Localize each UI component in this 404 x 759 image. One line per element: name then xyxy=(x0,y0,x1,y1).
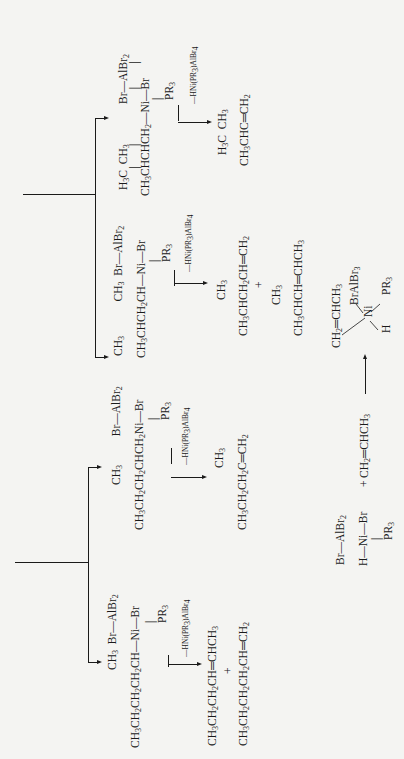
product-main: CH3CHCH2CH═CH2 xyxy=(237,236,249,336)
intermediate-top-line: CH3 Br—AlBr2 xyxy=(106,594,118,670)
product-main: CH3CH2CH2CH2CH═CH2 xyxy=(237,622,249,746)
reaction-arrow xyxy=(365,358,366,394)
elimination-label: —HNi(PR3)AlBr4 xyxy=(180,407,192,465)
reaction-arrow xyxy=(178,105,179,121)
catalyst-main: H—Ni—Br xyxy=(357,512,369,566)
arrow-head-icon xyxy=(203,281,208,285)
product-main: CH3CHC═CH2 xyxy=(238,94,250,166)
reaction-arrow xyxy=(171,448,172,464)
intermediate-ligand: |PR3 xyxy=(148,244,172,262)
plus-sign: + xyxy=(253,282,265,289)
elimination-label: —HNi(PR3)AlBr4 xyxy=(188,46,200,104)
reaction-arrow xyxy=(178,122,208,123)
intermediate-top-line: CH3 CH3 Br—AlBr2 xyxy=(112,226,124,356)
catalyst-ligand: |PR3 xyxy=(370,522,394,540)
intermediate-top-line: CH3 Br—AlBr2 xyxy=(110,386,122,485)
plus-sign: + xyxy=(358,481,370,488)
reaction-arrow xyxy=(174,283,204,284)
arrow-head-icon xyxy=(104,116,109,120)
intermediate-ligand: |PR3 xyxy=(144,605,168,623)
branch-stem-lower xyxy=(15,562,88,563)
product-top: CH3 xyxy=(213,448,225,468)
product-top: H3C CH3 xyxy=(216,109,228,155)
reaction-arrow xyxy=(168,664,198,665)
elimination-label: —HNi(PR3)AlBr4 xyxy=(183,214,195,272)
branch-bar-upper xyxy=(95,118,96,358)
intermediate-ligand: |PR3 xyxy=(147,402,171,420)
intermediate-main-line: CH3CHCH2CH—Ni—Br xyxy=(135,240,147,358)
intermediate-main-line: CH3CH2CH2CHCH2Ni—Br xyxy=(133,400,145,530)
branch-stem-upper xyxy=(23,194,95,195)
product-main: CH3CH2CH2C═CH2 xyxy=(236,434,248,530)
intermediate-ligand: |PR3 xyxy=(151,82,175,100)
branch-bar-lower xyxy=(88,467,89,663)
reaction-arrow xyxy=(171,477,203,478)
arrow-head-icon xyxy=(97,465,102,469)
plus-sign: + xyxy=(222,668,234,675)
arrow-head-icon xyxy=(97,660,102,664)
product-top: CH3 xyxy=(215,280,227,300)
intermediate-main-line: CH3CH2CH2CH2CH—Ni—Br xyxy=(129,606,141,748)
complex-bonds xyxy=(330,280,400,360)
catalyst-top: Br—AlBr2 xyxy=(334,515,346,565)
arrow-head-icon xyxy=(202,475,207,479)
olefin: CH2═CHCH3 xyxy=(358,414,370,478)
product-top: CH3 xyxy=(270,285,282,305)
arrow-head-icon xyxy=(104,355,109,359)
arrow-head-icon xyxy=(207,120,212,124)
product-main: CH3CH2CH2CH═CHCH3 xyxy=(206,626,218,746)
intermediate-main-line: CH3CHCHCH2—Ni—Br xyxy=(139,78,151,196)
arrow-head-icon xyxy=(197,662,202,666)
reaction-arrow xyxy=(168,655,169,667)
elimination-label: —HNi(PR3)AlBr4 xyxy=(180,599,192,657)
product-main: CH3CHCH═CHCH3 xyxy=(292,240,304,336)
